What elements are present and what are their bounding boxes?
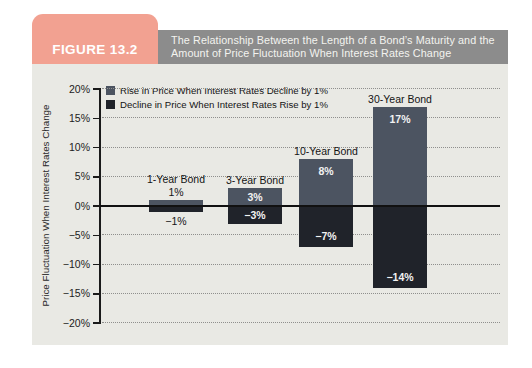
figure-title-line1: The Relationship Between the Length of a… bbox=[171, 34, 508, 47]
figure-title-line2: Amount of Price Fluctuation When Interes… bbox=[171, 47, 508, 60]
figure-number-tab: FIGURE 13.2 bbox=[32, 14, 158, 64]
figure-body bbox=[32, 64, 508, 345]
figure-title-bar: The Relationship Between the Length of a… bbox=[130, 30, 508, 64]
figure-page: FIGURE 13.2 The Relationship Between the… bbox=[0, 0, 532, 368]
figure-number-label: FIGURE 13.2 bbox=[52, 42, 137, 57]
